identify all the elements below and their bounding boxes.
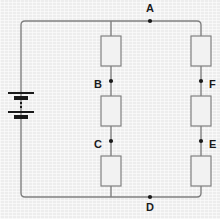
battery-gap-dash-0	[20, 102, 22, 104]
resistor-group	[101, 36, 211, 186]
node-label-e: E	[209, 138, 216, 150]
node-label-c: C	[94, 138, 102, 150]
battery-plate-short-3	[14, 115, 28, 119]
circuit-diagram-canvas: ABCDEF	[0, 0, 220, 219]
resistor-r6	[191, 156, 211, 186]
node-label-f: F	[209, 78, 216, 90]
battery-plate-long-2	[8, 111, 34, 113]
node-dot-group	[109, 19, 203, 199]
node-label-b: B	[94, 78, 102, 90]
resistor-r1	[101, 36, 121, 66]
resistor-r3	[101, 156, 121, 186]
node-label-d: D	[146, 201, 154, 213]
circuit-svg: ABCDEF	[0, 0, 220, 219]
node-dot-a	[148, 19, 152, 23]
resistor-r4	[191, 36, 211, 66]
node-dot-b	[109, 79, 113, 83]
node-dot-c	[109, 139, 113, 143]
node-dot-d	[148, 195, 152, 199]
resistor-r5	[191, 96, 211, 126]
node-dot-f	[199, 79, 203, 83]
resistor-r2	[101, 96, 121, 126]
node-label-a: A	[146, 2, 154, 14]
battery-plate-short-1	[14, 96, 28, 100]
battery-gap-dash-1	[20, 106, 22, 108]
node-dot-e	[199, 139, 203, 143]
battery-plate-long-0	[8, 92, 34, 94]
